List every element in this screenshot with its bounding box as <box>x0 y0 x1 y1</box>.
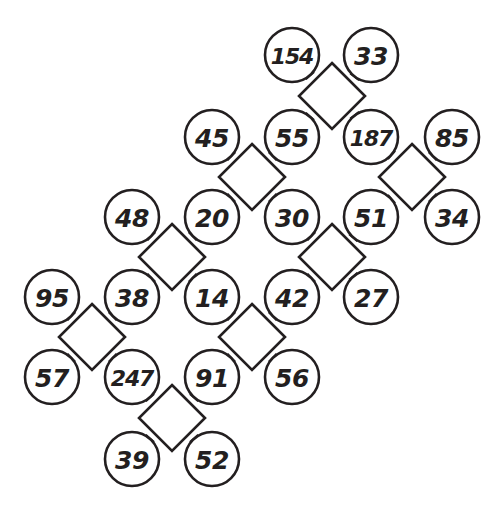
circle-node[interactable]: 30 <box>265 190 319 244</box>
circle-value-label: 55 <box>275 124 309 153</box>
circle-value-label: 38 <box>115 284 149 313</box>
circle-value-label: 85 <box>435 124 469 153</box>
circle-value-label: 56 <box>275 364 309 393</box>
circle-node[interactable]: 45 <box>185 110 239 164</box>
puzzle-diagram: 1543345551878548203051349538144227572479… <box>0 0 499 508</box>
circle-value-label: 52 <box>195 446 229 475</box>
circle-node[interactable]: 52 <box>185 432 239 486</box>
circle-node[interactable]: 39 <box>105 432 159 486</box>
circle-node[interactable]: 154 <box>265 28 319 82</box>
circle-value-label: 51 <box>354 204 388 233</box>
circle-node[interactable]: 57 <box>25 350 79 404</box>
circle-value-label: 91 <box>195 364 229 393</box>
circle-node[interactable]: 42 <box>265 270 319 324</box>
circle-node[interactable]: 33 <box>344 28 398 82</box>
circle-node[interactable]: 95 <box>25 270 79 324</box>
circle-value-label: 48 <box>114 204 149 233</box>
circle-node[interactable]: 27 <box>344 270 398 324</box>
circle-value-label: 39 <box>115 446 149 475</box>
circle-value-label: 95 <box>35 284 69 313</box>
circle-node[interactable]: 38 <box>105 270 159 324</box>
circle-node[interactable]: 56 <box>265 350 319 404</box>
circle-value-label: 14 <box>195 284 229 313</box>
circle-node[interactable]: 247 <box>105 350 159 404</box>
circles-layer: 1543345551878548203051349538144227572479… <box>25 28 479 486</box>
circle-value-label: 42 <box>274 284 309 313</box>
circle-value-label: 187 <box>350 126 394 151</box>
circle-node[interactable]: 51 <box>344 190 398 244</box>
circle-value-label: 247 <box>111 366 155 391</box>
puzzle-canvas: 1543345551878548203051349538144227572479… <box>0 0 499 508</box>
circle-node[interactable]: 187 <box>344 110 398 164</box>
circle-node[interactable]: 48 <box>105 190 159 244</box>
circle-value-label: 45 <box>194 124 229 153</box>
circle-value-label: 154 <box>271 44 313 69</box>
circle-value-label: 27 <box>354 284 389 313</box>
circle-node[interactable]: 20 <box>185 190 239 244</box>
circle-value-label: 33 <box>354 42 388 71</box>
circle-node[interactable]: 91 <box>185 350 239 404</box>
circle-value-label: 34 <box>435 204 469 233</box>
circle-node[interactable]: 55 <box>265 110 319 164</box>
circle-value-label: 57 <box>35 364 70 393</box>
circle-node[interactable]: 14 <box>185 270 239 324</box>
circle-value-label: 30 <box>275 204 309 233</box>
circle-value-label: 20 <box>195 204 229 233</box>
circle-node[interactable]: 85 <box>425 110 479 164</box>
circle-node[interactable]: 34 <box>425 190 479 244</box>
